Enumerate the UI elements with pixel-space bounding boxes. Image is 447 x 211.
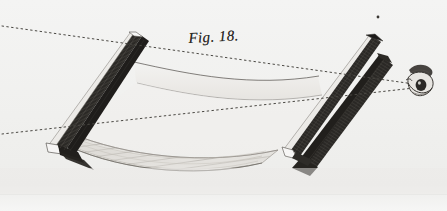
plate-wipe-tone (0, 168, 447, 194)
plate-margin-seam (0, 194, 447, 195)
engraving-plate: Fig. 18. (0, 0, 447, 211)
registration-dot (377, 16, 380, 19)
figure-artwork (0, 0, 447, 211)
